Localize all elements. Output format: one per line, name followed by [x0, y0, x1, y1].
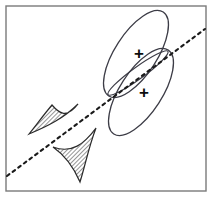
- figure-canvas: + +: [0, 0, 213, 198]
- class-mean-marker-lower: +: [139, 83, 149, 102]
- class-mean-marker-upper: +: [134, 44, 144, 63]
- figure-container: + +: [0, 0, 213, 198]
- figure-background: [0, 0, 213, 198]
